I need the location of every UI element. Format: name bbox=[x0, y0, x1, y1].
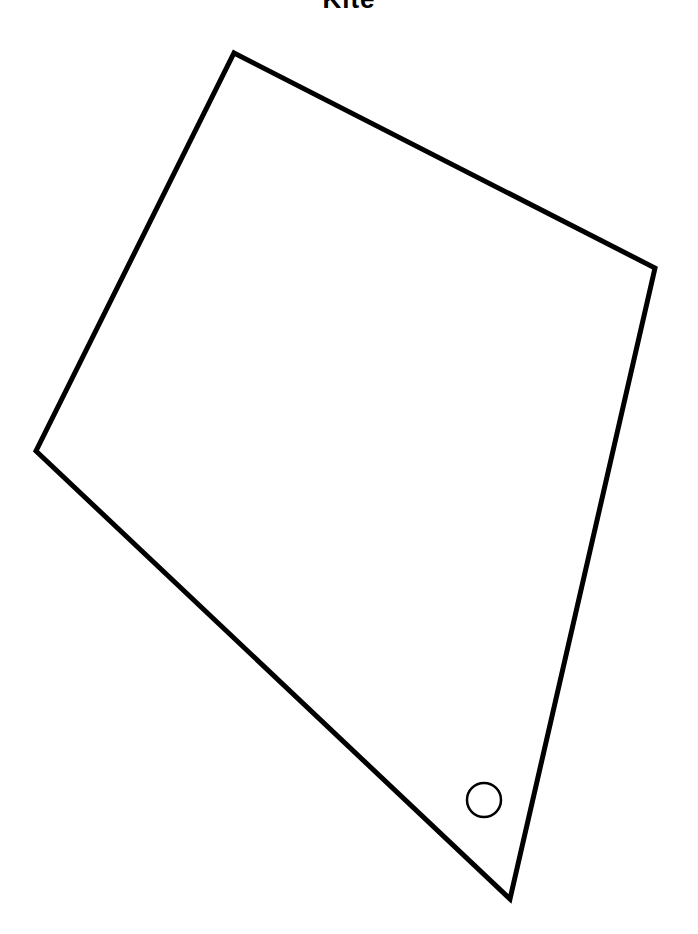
kite-diagram bbox=[0, 0, 698, 934]
kite-shape bbox=[36, 53, 655, 899]
